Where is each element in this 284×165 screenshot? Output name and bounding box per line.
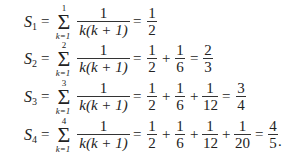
lhs-s4: S4 xyxy=(24,126,37,145)
term-fraction: 120 xyxy=(234,119,251,151)
equation-row-4: S4 = 4Σk=1 1k(k + 1) = 12 + 16 + 112 + 1… xyxy=(0,117,284,153)
equals-sign: = xyxy=(41,88,49,105)
summation-icon: 3Σk=1 xyxy=(53,79,75,116)
plus-sign: + xyxy=(190,88,198,105)
term-fraction: 112 xyxy=(202,81,218,113)
result-fraction: 23 xyxy=(203,43,213,75)
summand-fraction: 1k(k + 1) xyxy=(77,43,130,75)
equals-sign: = xyxy=(133,50,141,67)
equals-sign: = xyxy=(190,50,198,67)
summation-icon: 2Σk=1 xyxy=(53,41,75,78)
term-fraction: 16 xyxy=(175,81,185,113)
result-fraction: 34 xyxy=(236,81,246,113)
lhs-s2: S2 xyxy=(24,50,37,69)
summation-icon: 1Σk=1 xyxy=(53,4,75,41)
lhs-s3: S3 xyxy=(24,88,37,107)
equals-sign: = xyxy=(133,13,141,30)
equals-sign: = xyxy=(133,88,141,105)
result-fraction: 45 xyxy=(268,119,278,151)
equation-row-3: S3 = 3Σk=1 1k(k + 1) = 12 + 16 + 112 = 3… xyxy=(0,79,284,115)
equals-sign: = xyxy=(41,13,49,30)
equals-sign: = xyxy=(41,50,49,67)
term-fraction: 16 xyxy=(175,43,185,75)
term-fraction: 16 xyxy=(175,119,185,151)
term-fraction: 12 xyxy=(147,81,157,113)
equals-sign: = xyxy=(222,88,230,105)
equals-sign: = xyxy=(255,126,263,143)
plus-sign: + xyxy=(162,126,170,143)
period: . xyxy=(278,133,282,150)
summand-fraction: 1k(k + 1) xyxy=(77,6,130,38)
equation-row-2: S2 = 2Σk=1 1k(k + 1) = 12 + 16 = 23 xyxy=(0,41,284,77)
summand-fraction: 1k(k + 1) xyxy=(77,119,130,151)
equation-row-1: S1 = 1Σk=1 1k(k + 1) = 12 xyxy=(0,4,284,40)
term-fraction: 12 xyxy=(147,43,157,75)
summand-fraction: 1k(k + 1) xyxy=(77,81,130,113)
plus-sign: + xyxy=(162,88,170,105)
lhs-s1: S1 xyxy=(24,13,37,32)
plus-sign: + xyxy=(222,126,230,143)
plus-sign: + xyxy=(162,50,170,67)
term-fraction: 112 xyxy=(202,119,218,151)
equals-sign: = xyxy=(133,126,141,143)
equals-sign: = xyxy=(41,126,49,143)
summation-icon: 4Σk=1 xyxy=(53,117,75,154)
term-fraction: 12 xyxy=(147,119,157,151)
plus-sign: + xyxy=(190,126,198,143)
term-fraction: 12 xyxy=(147,6,157,38)
